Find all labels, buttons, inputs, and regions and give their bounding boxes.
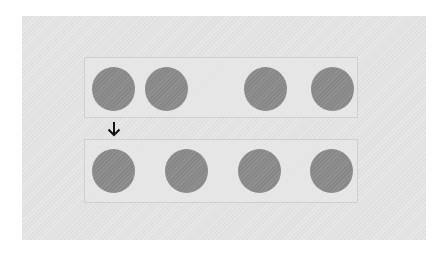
top-item-1 [92,67,135,111]
diagram-canvas [22,16,426,240]
arrow-down-icon [107,121,121,137]
top-item-4 [311,67,354,111]
top-item-2 [145,67,188,111]
bottom-item-2 [165,149,208,193]
bottom-item-3 [238,149,281,193]
bottom-item-4 [310,149,353,193]
top-item-3 [244,67,287,111]
bottom-item-1 [92,149,135,193]
